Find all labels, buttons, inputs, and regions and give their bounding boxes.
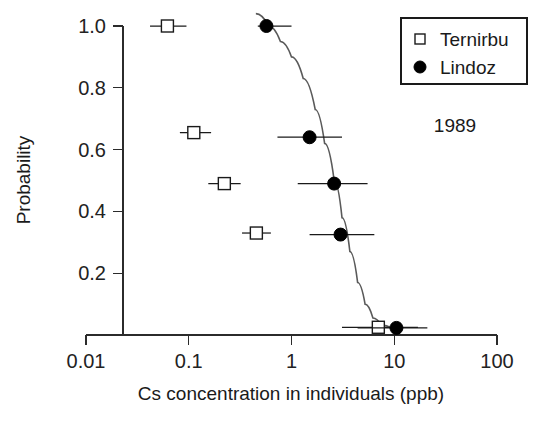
y-tick-label: 0.4 [78,200,106,222]
legend: Ternirbu Lindoz [401,18,527,84]
x-tick-label: 0.01 [67,350,106,372]
data-point-marker [303,131,316,144]
data-point-marker [334,228,347,241]
x-tick-label: 100 [480,350,513,372]
figure-container: 0.20.40.60.81.0 0.010.1110100 Cs concent… [0,0,537,432]
legend-marker-open-square-icon [415,34,425,44]
x-tick-label: 10 [383,350,405,372]
x-tick-label: 0.1 [175,350,203,372]
data-point-marker [260,20,273,33]
data-point-marker [390,321,403,334]
annotation-year: 1989 [434,115,476,136]
legend-marker-filled-circle-icon [414,61,426,73]
fit-curve-lindoz [256,14,403,330]
data-series-ternirbu [150,20,418,333]
data-point-marker [328,177,341,190]
y-tick-label: 0.8 [78,77,106,99]
data-point-marker [250,227,262,239]
x-tick-label: 1 [286,350,297,372]
y-axis-tick-labels: 0.20.40.60.81.0 [78,15,106,284]
data-point-marker [218,178,230,190]
legend-label-lindoz: Lindoz [440,57,496,78]
data-point-marker [161,20,173,32]
y-tick-label: 0.2 [78,262,106,284]
y-tick-label: 1.0 [78,15,106,37]
y-axis-title: Probability [13,135,34,224]
x-axis-tick-labels: 0.010.1110100 [67,350,514,372]
y-axis-ticks [113,26,123,273]
y-tick-label: 0.6 [78,139,106,161]
scatter-plot-svg: 0.20.40.60.81.0 0.010.1110100 Cs concent… [0,0,537,432]
legend-label-ternirbu: Ternirbu [440,29,509,50]
data-point-marker [188,127,200,139]
x-axis-ticks [86,335,497,345]
x-axis-title: Cs concentration in individuals (ppb) [138,383,444,404]
